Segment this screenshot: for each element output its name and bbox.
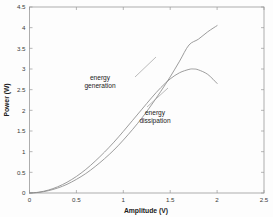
y-tick-label: 2.5 <box>17 86 26 93</box>
y-tick-label: 3 <box>22 65 26 72</box>
x-tick-label: 1.5 <box>166 196 175 203</box>
annotation-label: generation <box>84 82 115 90</box>
y-tick-label: 4.5 <box>17 3 26 10</box>
x-tick-label: 2 <box>215 196 219 203</box>
x-tick-label: 1 <box>122 196 126 203</box>
y-tick-label: 3.5 <box>17 45 26 52</box>
x-axis-label: Amplitude (V) <box>124 207 168 215</box>
y-axis-label: Power (W) <box>3 83 11 116</box>
annotation-label: energy <box>90 74 111 82</box>
y-tick-label: 0.5 <box>17 169 26 176</box>
chart-figure: 00.511.522.5 00.511.522.533.544.5 energy… <box>0 0 273 217</box>
y-tick-label: 4 <box>22 24 26 31</box>
y-tick-label: 2 <box>22 107 26 114</box>
annotation-label: energy <box>145 109 166 117</box>
x-tick-label: 2.5 <box>260 196 269 203</box>
y-tick-label: 1.5 <box>17 127 26 134</box>
y-tick-label: 1 <box>22 148 26 155</box>
annotation-label: dissipation <box>139 117 170 125</box>
x-tick-label: 0 <box>28 196 32 203</box>
figure-background <box>0 0 273 217</box>
y-tick-label: 0 <box>22 189 26 196</box>
x-tick-label: 0.5 <box>72 196 81 203</box>
plot-canvas: 00.511.522.5 00.511.522.533.544.5 energy… <box>0 0 273 217</box>
